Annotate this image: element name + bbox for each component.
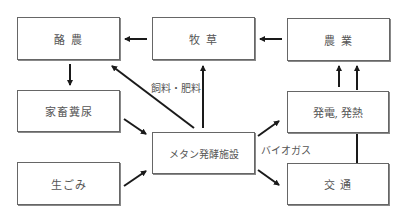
- node-koutsuu-label: 交 通: [324, 176, 353, 192]
- node-hatsuden-hatsunetsu-label: 発電, 発熱: [313, 104, 364, 120]
- node-rakunou-label: 酪 農: [54, 31, 83, 47]
- node-namagomi-label: 生ごみ: [51, 176, 87, 192]
- node-nougyou-label: 農 業: [324, 32, 353, 48]
- arrow-namagomi-to-methane: [124, 171, 146, 186]
- arrow-methane-to-koutsuu: [258, 170, 279, 185]
- edge-label-feed-fertilizer: 飼料・肥料: [151, 80, 201, 95]
- node-hatsuden-hatsunetsu: 発電, 発熱: [287, 91, 389, 133]
- node-rakunou: 酪 農: [17, 17, 120, 60]
- node-methane-facility-label: メタン発酵施設: [169, 146, 239, 161]
- node-bokusou-label: 牧 草: [189, 31, 218, 47]
- node-kachiku-funnyou: 家畜糞尿: [17, 90, 120, 132]
- node-kachiku-funnyou-label: 家畜糞尿: [45, 103, 93, 119]
- node-methane-facility: メタン発酵施設: [152, 132, 255, 174]
- node-koutsuu: 交 通: [287, 163, 389, 205]
- node-bokusou: 牧 草: [152, 17, 255, 60]
- node-namagomi: 生ごみ: [17, 162, 120, 205]
- arrow-kachiku-to-methane: [124, 119, 146, 134]
- edge-label-biogas: バイオガス: [261, 142, 311, 157]
- node-nougyou: 農 業: [287, 18, 390, 61]
- arrow-methane-to-hatsuden: [258, 121, 279, 136]
